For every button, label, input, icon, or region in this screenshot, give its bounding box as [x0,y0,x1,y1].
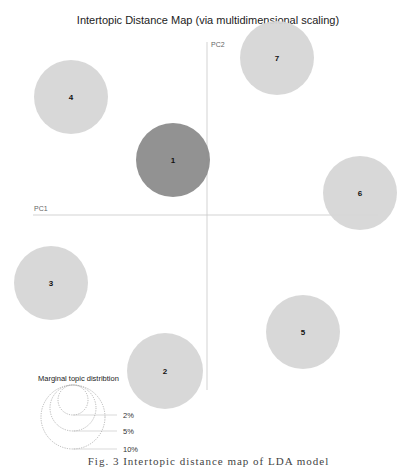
legend-label: 5% [123,427,134,436]
topic-bubble-2[interactable]: 2 [127,333,203,409]
chart-title: Intertopic Distance Map (via multidimens… [77,14,339,26]
topic-number: 1 [171,156,176,165]
topic-number: 6 [358,189,363,198]
legend-label: 10% [123,445,138,454]
topic-bubble-7[interactable]: 7 [240,21,314,95]
topic-bubble-4[interactable]: 4 [34,60,108,134]
pc1-label: PC1 [34,205,48,212]
topic-bubble-5[interactable]: 5 [266,295,340,369]
figure-caption: Fig. 3 Intertopic distance map of LDA mo… [0,455,417,467]
topic-number: 2 [163,367,168,376]
topic-bubble-6[interactable]: 6 [323,156,397,230]
topic-bubble-1[interactable]: 1 [136,123,210,197]
legend-title: Marginal topic distribtion [38,374,119,383]
marginal-topic-legend: Marginal topic distribtion 2%5%10% [38,374,138,454]
topic-bubble-3[interactable]: 3 [14,246,88,320]
topic-number: 4 [69,93,74,102]
topic-number: 3 [49,279,54,288]
legend-label: 2% [123,411,134,420]
legend-circle [41,385,105,449]
pc2-label: PC2 [211,41,225,48]
topic-number: 5 [301,328,306,337]
legend-item-2pct: 2% [58,385,134,420]
legend-circle [58,385,88,415]
legend-item-5pct: 5% [50,385,134,436]
topic-number: 7 [275,54,280,63]
legend-circle [50,385,96,431]
